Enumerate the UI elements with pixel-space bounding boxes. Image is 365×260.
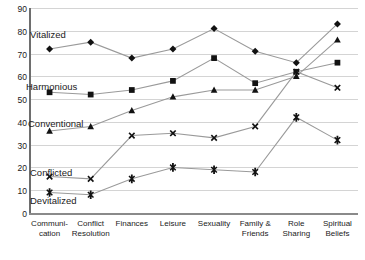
data-point-harmonious-7 — [335, 60, 341, 66]
line-chart: 90 80 70 60 50 40 30 20 10 0 VitalizedHa… — [0, 0, 365, 260]
x-tick-3: Leisure — [152, 219, 193, 229]
data-point-harmonious-1 — [88, 92, 94, 98]
data-point-conventional-7 — [334, 36, 341, 42]
data-point-devitalized-7 — [334, 136, 341, 145]
x-tick-line: cation — [29, 229, 70, 239]
x-tick-line: Role — [276, 219, 317, 229]
data-point-devitalized-2 — [128, 175, 135, 184]
x-tick-line: Beliefs — [317, 229, 358, 239]
x-tick-line: Communi- — [29, 219, 70, 229]
x-tick-0: Communi-cation — [29, 219, 70, 239]
data-point-devitalized-6 — [293, 113, 300, 122]
x-tick-line: Friends — [235, 229, 276, 239]
data-point-harmonious-3 — [170, 78, 176, 84]
series-label-vitalized: Vitalized — [30, 30, 66, 40]
x-tick-7: SpiritualBeliefs — [317, 219, 358, 239]
series-label-devitalized: Devitalized — [30, 196, 76, 206]
data-point-vitalized-0 — [46, 46, 53, 53]
x-tick-6: RoleSharing — [276, 219, 317, 239]
data-point-harmonious-4 — [211, 55, 217, 61]
x-tick-line: Conflict — [70, 219, 111, 229]
x-tick-line: Finances — [111, 219, 152, 229]
data-point-conflicted-5 — [252, 123, 259, 130]
data-point-conflicted-7 — [334, 84, 341, 91]
x-tick-1: ConflictResolution — [70, 219, 111, 239]
series-label-conflicted: Conflicted — [30, 168, 72, 178]
x-tick-line: Sharing — [276, 229, 317, 239]
x-tick-4: Sexuality — [194, 219, 235, 229]
series-line-conventional — [50, 40, 338, 131]
x-tick-line: Sexuality — [194, 219, 235, 229]
data-point-vitalized-4 — [211, 25, 218, 32]
x-tick-2: Finances — [111, 219, 152, 229]
x-tick-line: Leisure — [152, 219, 193, 229]
series-label-harmonious: Harmonious — [26, 82, 77, 92]
data-point-vitalized-3 — [169, 46, 176, 53]
x-tick-line: Spiritual — [317, 219, 358, 229]
x-tick-line: Family & — [235, 219, 276, 229]
x-tick-line: Resolution — [70, 229, 111, 239]
data-point-harmonious-2 — [129, 87, 135, 93]
series-label-conventional: Conventional — [28, 119, 83, 129]
data-point-vitalized-5 — [252, 48, 259, 55]
data-point-harmonious-5 — [252, 80, 258, 86]
data-point-vitalized-2 — [128, 55, 135, 62]
x-tick-5: Family &Friends — [235, 219, 276, 239]
data-point-vitalized-1 — [87, 39, 94, 46]
